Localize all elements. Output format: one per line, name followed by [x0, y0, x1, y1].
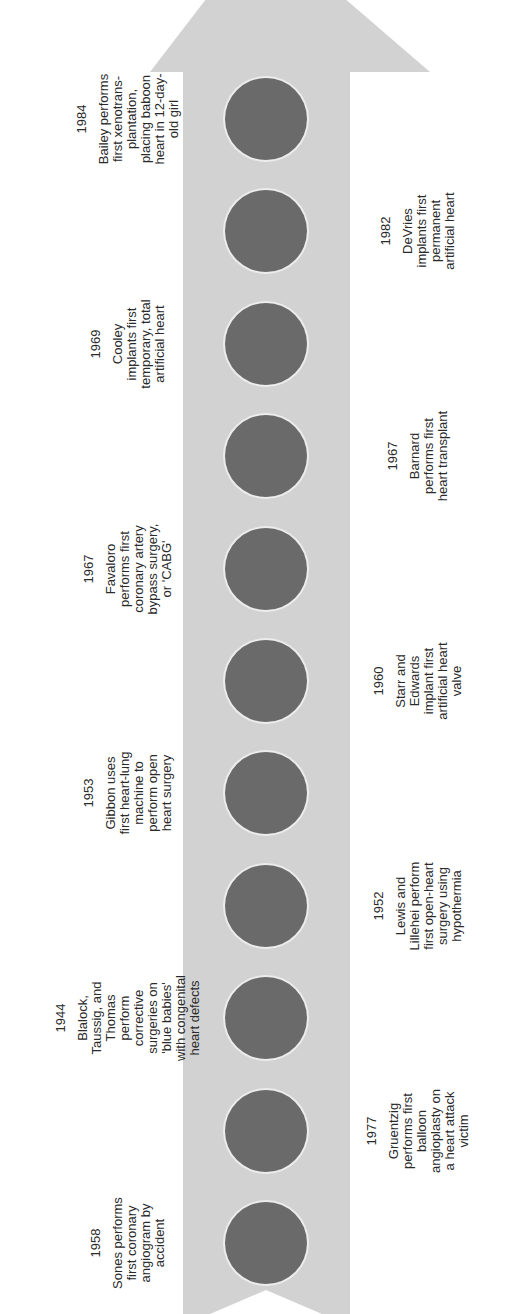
timeline-event-label: 1969Cooley implants first temporary, tot…	[38, 294, 218, 394]
timeline-marker	[225, 528, 307, 610]
event-description: Gruentzig performs first balloon angiopl…	[387, 1085, 471, 1177]
event-description: Cooley implants first temporary, total a…	[111, 298, 167, 390]
timeline-marker	[225, 640, 307, 722]
event-description: Starr and Edwards implant first artifici…	[394, 635, 464, 727]
event-year: 1944	[54, 928, 68, 1108]
event-year: 1977	[365, 1041, 379, 1221]
timeline-event-label: 1977Gruentzig performs first balloon ang…	[328, 1081, 508, 1181]
timeline-marker	[225, 303, 307, 385]
event-year: 1967	[82, 479, 96, 659]
event-description: Blalock, Taussig, and Thomas perform cor…	[76, 972, 202, 1064]
timeline-event-label: 1953Gibbon uses first heart-lung machine…	[38, 743, 218, 843]
timeline-marker	[225, 1090, 307, 1172]
event-year: 1953	[82, 703, 96, 883]
event-year: 1969	[89, 254, 103, 434]
event-description: Favaloro performs first coronary artery …	[104, 523, 174, 615]
timeline-event-label: 1958Sones performs first coronary angiog…	[38, 1193, 218, 1293]
event-year: 1952	[372, 816, 386, 996]
event-description: Bailey performs first xenotrans-plantati…	[97, 73, 181, 165]
timeline-event-label: 1967Barnard performs first heart transpl…	[328, 406, 508, 506]
timeline-event-label: 1967Favaloro performs first coronary art…	[38, 519, 218, 619]
event-year: 1960	[372, 591, 386, 771]
event-description: Sones performs first coronary angiogram …	[111, 1197, 167, 1289]
timeline-marker	[225, 865, 307, 947]
event-description: DeVries implants first permanent artific…	[401, 185, 457, 277]
timeline-marker	[225, 752, 307, 834]
timeline-event-label: 1944Blalock, Taussig, and Thomas perform…	[38, 968, 218, 1068]
timeline-marker	[225, 1202, 307, 1284]
event-year: 1967	[386, 366, 400, 546]
timeline-marker	[225, 977, 307, 1059]
event-description: Lewis and Lillehei perform first open-he…	[394, 860, 464, 952]
event-year: 1984	[75, 29, 89, 209]
timeline-diagram: 1958Sones performs first coronary angiog…	[0, 0, 512, 1314]
event-year: 1958	[89, 1153, 103, 1314]
timeline-event-label: 1952Lewis and Lillehei perform first ope…	[328, 856, 508, 956]
timeline-marker	[225, 78, 307, 160]
event-description: Barnard performs first heart transplant	[408, 410, 450, 502]
event-year: 1982	[379, 141, 393, 321]
timeline-marker	[225, 190, 307, 272]
timeline-event-label: 1960Starr and Edwards implant first arti…	[328, 631, 508, 731]
timeline-event-label: 1982DeVries implants first permanent art…	[328, 181, 508, 281]
timeline-event-label: 1984Bailey performs first xenotrans-plan…	[38, 69, 218, 169]
event-description: Gibbon uses first heart-lung machine to …	[104, 747, 174, 839]
timeline-marker	[225, 415, 307, 497]
